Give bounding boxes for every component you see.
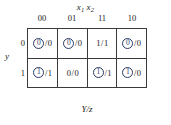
column-headers: 00 01 11 10 — [27, 13, 147, 24]
map-cell-y0-x01: 0/0 — [57, 29, 87, 58]
output-value: 0 — [74, 68, 78, 78]
output-value: 1 — [48, 68, 52, 78]
row-header-0: 0 — [13, 28, 25, 58]
next-state-value: 1 — [33, 67, 44, 78]
top-input-variable-x2: x2 — [87, 2, 95, 12]
map-cell-y1-x10: 1/0 — [116, 59, 146, 87]
output-value: 0 — [48, 38, 52, 48]
map-row: 0/0 0/0 1/1 0/0 — [28, 29, 146, 58]
column-header-01: 01 — [57, 13, 87, 24]
next-state-value: 1 — [122, 67, 133, 78]
bottom-output-label: Y/z — [27, 104, 147, 114]
row-state-label: y — [5, 51, 9, 61]
map-cell-y1-x00: 1/1 — [28, 59, 57, 87]
column-header-11: 11 — [87, 13, 117, 24]
map-cell-y1-x11: 1/1 — [87, 59, 117, 87]
map-cell-y0-x11: 1/1 — [87, 29, 117, 58]
map-cell-y1-x01: 0/0 — [57, 59, 87, 87]
next-state-value: 0 — [33, 38, 44, 49]
output-value: 0 — [137, 68, 141, 78]
next-state-value: 0 — [63, 38, 74, 49]
output-value: 1 — [104, 38, 108, 48]
column-header-00: 00 — [27, 13, 57, 24]
output-value: 1 — [107, 68, 111, 78]
top-input-variable-x1: x1 — [77, 2, 85, 12]
output-value: 0 — [78, 38, 82, 48]
column-header-10: 10 — [117, 13, 147, 24]
map-cell-y0-x10: 0/0 — [116, 29, 146, 58]
map-row: 1/1 0/0 1/1 1/0 — [28, 58, 146, 87]
x1-subscript: 1 — [81, 6, 84, 13]
x2-subscript: 2 — [91, 6, 94, 13]
map-cell-y0-x00: 0/0 — [28, 29, 57, 58]
row-header-1: 1 — [13, 58, 25, 88]
map-grid: 0/0 0/0 1/1 0/0 1/1 0/0 1/1 1/0 — [27, 28, 147, 88]
row-headers: 0 1 — [13, 28, 25, 88]
next-state-value: 1 — [93, 67, 104, 78]
output-value: 0 — [137, 38, 141, 48]
next-state-value: 0 — [122, 38, 133, 49]
karnaugh-map-figure: x1x2 00 01 11 10 y 0 1 0/0 0/0 1/1 0/0 1… — [0, 0, 171, 125]
